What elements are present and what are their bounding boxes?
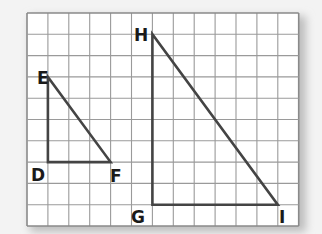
vertex-label-d: D — [31, 165, 45, 185]
grid-diagram: EDFHGI — [0, 0, 322, 234]
vertex-label-f: F — [110, 166, 122, 186]
vertex-label-g: G — [131, 207, 145, 227]
vertex-label-h: H — [134, 25, 148, 45]
vertex-label-e: E — [37, 68, 49, 88]
vertex-label-i: I — [279, 207, 285, 227]
